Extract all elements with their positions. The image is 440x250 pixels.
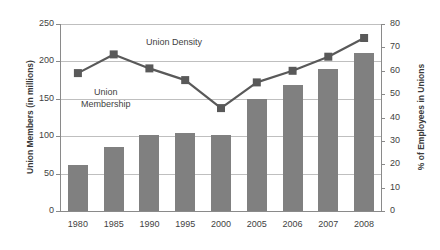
plot-area: Union Density Union Membership bbox=[60, 24, 382, 211]
annotation-union-membership-line1: Union bbox=[81, 86, 131, 98]
y-axis-right-title: % of Employees in Unions bbox=[416, 37, 426, 197]
x-axis-tick-label: 1985 bbox=[94, 219, 134, 229]
line-marker bbox=[145, 64, 153, 72]
y-axis-left-tick-label: 100 bbox=[28, 130, 54, 140]
x-axis-tick-label: 1995 bbox=[165, 219, 205, 229]
annotation-union-membership-line2: Membership bbox=[81, 98, 131, 110]
y-axis-right-tick-label: 20 bbox=[390, 158, 416, 168]
y-axis-left-tick-label: 50 bbox=[28, 168, 54, 178]
y-axis-right-tick-label: 40 bbox=[390, 112, 416, 122]
line-series-union-density bbox=[60, 24, 382, 212]
line-marker bbox=[360, 34, 368, 42]
y-axis-right-tick-label: 80 bbox=[390, 18, 416, 28]
y-axis-right-tick-label: 50 bbox=[390, 88, 416, 98]
annotation-union-membership: Union Membership bbox=[81, 86, 131, 110]
x-axis-tick-label: 2006 bbox=[273, 219, 313, 229]
x-axis-tick-label: 2007 bbox=[308, 219, 348, 229]
y-axis-left-tick-label: 0 bbox=[28, 205, 54, 215]
chart-container: Union Members (in millions) % of Employe… bbox=[0, 0, 440, 250]
line-marker bbox=[217, 104, 225, 112]
y-axis-right-tick-label: 70 bbox=[390, 41, 416, 51]
line-marker bbox=[181, 76, 189, 84]
line-marker bbox=[74, 69, 82, 77]
y-axis-left-tick-label: 200 bbox=[28, 55, 54, 65]
x-axis-tick-label: 1990 bbox=[129, 219, 169, 229]
line-marker bbox=[110, 50, 118, 58]
annotation-union-density: Union Density bbox=[146, 37, 202, 47]
x-axis-tick-label: 1980 bbox=[58, 219, 98, 229]
y-axis-right-tick-label: 30 bbox=[390, 135, 416, 145]
y-axis-left-tick-label: 250 bbox=[28, 18, 54, 28]
y-axis-right-tick-label: 10 bbox=[390, 182, 416, 192]
y-axis-left-tick-label: 150 bbox=[28, 93, 54, 103]
line-marker bbox=[324, 53, 332, 61]
y-axis-right-tick-label: 0 bbox=[390, 205, 416, 215]
x-axis-tick-label: 2000 bbox=[201, 219, 241, 229]
y-axis-right-tick-label: 60 bbox=[390, 65, 416, 75]
line-marker bbox=[253, 78, 261, 86]
x-axis-tick-label: 2005 bbox=[237, 219, 277, 229]
x-axis-tick-label: 2008 bbox=[344, 219, 384, 229]
line-marker bbox=[289, 67, 297, 75]
